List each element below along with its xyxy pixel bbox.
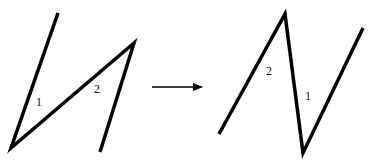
right-angle-label-1: 1: [305, 89, 311, 103]
left-polyline: [11, 13, 134, 152]
left-angle-label-1: 1: [36, 95, 42, 109]
right-polyline: [219, 14, 363, 153]
left-figure: 1 2: [11, 13, 134, 152]
right-figure: 2 1: [219, 14, 363, 153]
right-angle-label-2: 2: [266, 64, 272, 78]
diagram-canvas: 1 2 2 1: [0, 0, 376, 163]
left-angle-label-2: 2: [94, 82, 100, 96]
